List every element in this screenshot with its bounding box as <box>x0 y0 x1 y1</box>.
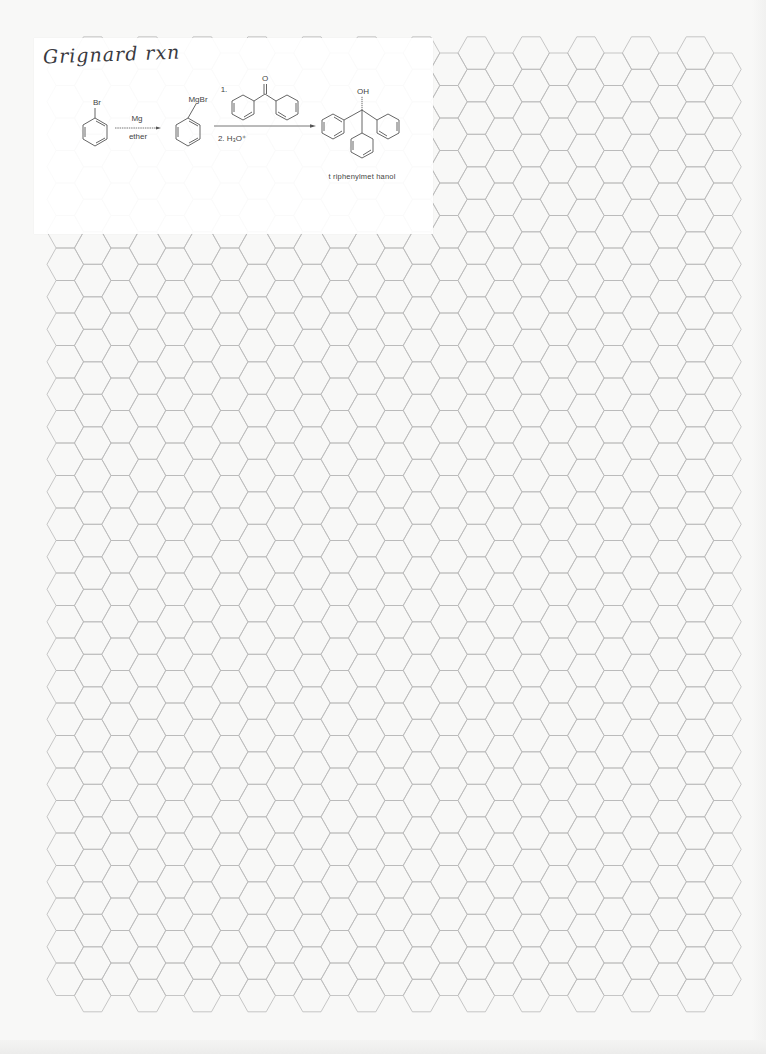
ether-solvent-label: ether <box>129 132 147 141</box>
hexagon-cell <box>239 914 276 947</box>
br-label: Br <box>93 98 101 107</box>
hexagon-cell <box>376 606 413 639</box>
hexagon-cell <box>431 346 468 379</box>
hexagon-cell <box>540 86 577 119</box>
hexagon-cell <box>705 898 742 931</box>
hexagon-cell <box>157 801 194 834</box>
hexagon-cell <box>650 53 687 86</box>
hexagon-cell <box>211 508 248 541</box>
hexagon-cell <box>458 102 495 135</box>
hexagon-cell <box>47 378 84 411</box>
hexagon-cell <box>129 817 166 850</box>
hexagon-cell <box>348 427 385 460</box>
hexagon-cell <box>458 329 495 362</box>
hexagon-cell <box>74 427 111 460</box>
hexagon-cell <box>622 134 659 167</box>
hexagon-cell <box>485 703 522 736</box>
hexagon-cell <box>321 638 358 671</box>
hexagon-cell <box>431 736 468 769</box>
hexagon-cell <box>184 719 221 752</box>
hexagon-cell <box>458 687 495 720</box>
hexagon-cell <box>458 37 495 70</box>
hexagon-cell <box>239 297 276 330</box>
hexagon-cell <box>376 313 413 346</box>
hexagon-cell <box>321 313 358 346</box>
hexagon-cell <box>568 69 605 102</box>
hexagon-cell <box>211 281 248 314</box>
hexagon-cell <box>650 541 687 574</box>
hexagon-cell <box>102 768 139 801</box>
hexagon-cell <box>595 573 632 606</box>
hexagon-cell <box>211 638 248 671</box>
hexagon-cell <box>294 232 331 264</box>
step-2-hydronium-label: 2. H₃O⁺ <box>218 134 246 143</box>
hexagon-cell <box>458 394 495 427</box>
hexagon-cell <box>266 931 303 964</box>
hexagon-cell <box>211 443 248 476</box>
hexagon-cell <box>157 606 194 639</box>
hexagon-cell <box>431 118 468 151</box>
hexagon-cell <box>513 492 550 525</box>
hexagon-cell <box>485 248 522 281</box>
hexagon-cell <box>485 931 522 964</box>
hexagon-cell <box>348 687 385 720</box>
hexagon-cell <box>595 216 632 249</box>
hexagon-cell <box>239 752 276 785</box>
hexagon-cell <box>485 898 522 931</box>
hexagon-cell <box>403 589 440 622</box>
hexagon-cell <box>403 264 440 297</box>
hexagon-cell <box>184 882 221 915</box>
hexagon-cell <box>211 866 248 899</box>
hexagon-cell <box>568 882 605 915</box>
hexagon-cell <box>321 248 358 281</box>
hexagon-cell <box>157 671 194 704</box>
hexagon-cell <box>650 378 687 411</box>
hexagon-cell <box>568 102 605 135</box>
hexagon-cell <box>568 557 605 590</box>
hexagon-cell <box>184 589 221 622</box>
hexagon-cell <box>540 313 577 346</box>
hexagon-cell <box>595 508 632 541</box>
hexagon-cell <box>266 898 303 931</box>
hexagon-cell <box>348 264 385 297</box>
hexagon-cell <box>239 719 276 752</box>
bromobenzene-ring-icon <box>83 108 107 146</box>
hexagon-cell <box>540 151 577 184</box>
hexagon-cell <box>485 963 522 996</box>
hexagon-cell <box>184 297 221 330</box>
hexagon-cell <box>705 476 742 509</box>
hexagon-cell <box>74 882 111 915</box>
hexagon-cell <box>595 346 632 379</box>
hexagon-cell <box>458 427 495 460</box>
hexagon-cell <box>102 281 139 314</box>
hexagon-cell <box>129 622 166 655</box>
hexagon-cell <box>129 784 166 817</box>
hexagon-cell <box>622 297 659 330</box>
hexagon-cell <box>595 866 632 899</box>
hexagon-cell <box>376 703 413 736</box>
hexagon-cell <box>239 622 276 655</box>
hexagon-cell <box>513 752 550 785</box>
hexagon-cell <box>513 199 550 232</box>
hexagon-cell <box>568 654 605 687</box>
hexagon-cell <box>677 719 714 752</box>
hexagon-cell <box>458 459 495 492</box>
hexagon-cell <box>705 216 742 249</box>
hexagon-cell <box>47 281 84 314</box>
hexagon-cell <box>485 443 522 476</box>
hexagon-cell <box>47 703 84 736</box>
hexagon-cell <box>211 541 248 574</box>
hexagon-cell <box>622 524 659 557</box>
hexagon-cell <box>568 232 605 264</box>
hexagon-cell <box>403 817 440 850</box>
hexagon-cell <box>102 801 139 834</box>
hexagon-cell <box>102 866 139 899</box>
hexagon-cell <box>47 476 84 509</box>
hexagon-cell <box>74 784 111 817</box>
hexagon-cell <box>321 443 358 476</box>
hexagon-cell <box>184 459 221 492</box>
hexagon-cell <box>622 102 659 135</box>
hexagon-cell <box>403 557 440 590</box>
hexagon-cell <box>321 801 358 834</box>
hexagon-cell <box>705 118 742 151</box>
